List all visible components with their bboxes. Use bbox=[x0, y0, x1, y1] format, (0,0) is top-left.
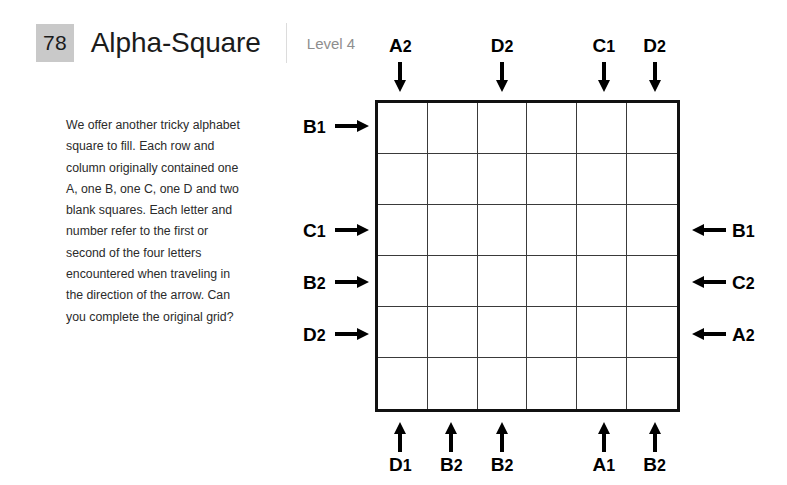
grid-cell[interactable] bbox=[627, 256, 677, 307]
puzzle-number-badge: 78 bbox=[36, 24, 74, 62]
puzzle-grid[interactable] bbox=[375, 100, 680, 412]
arrow-right-icon bbox=[335, 274, 369, 290]
clue-right-row4: C2 bbox=[732, 273, 755, 292]
clue-top-col6: D2 bbox=[643, 36, 666, 55]
arrow-down-icon bbox=[494, 62, 510, 92]
grid-cell[interactable] bbox=[627, 103, 677, 154]
grid-cell[interactable] bbox=[627, 358, 677, 409]
grid-cell[interactable] bbox=[378, 358, 428, 409]
clue-left-row5: D2 bbox=[303, 325, 326, 344]
grid-cell[interactable] bbox=[527, 307, 577, 358]
arrow-left-icon bbox=[692, 222, 726, 238]
clue-right-row5: A2 bbox=[732, 325, 755, 344]
arrow-down-icon bbox=[392, 62, 408, 92]
grid-cell[interactable] bbox=[428, 205, 478, 256]
arrow-down-icon bbox=[596, 62, 612, 92]
clue-top-col1: A2 bbox=[389, 36, 412, 55]
arrow-up-icon bbox=[647, 422, 663, 452]
grid-cell[interactable] bbox=[627, 154, 677, 205]
grid-cell[interactable] bbox=[478, 205, 528, 256]
grid-cell[interactable] bbox=[577, 154, 627, 205]
clue-bottom-col5: A1 bbox=[592, 455, 615, 474]
clue-bottom-col1: D1 bbox=[389, 455, 412, 474]
grid-cell[interactable] bbox=[378, 256, 428, 307]
arrow-up-icon bbox=[443, 422, 459, 452]
grid-cell[interactable] bbox=[577, 307, 627, 358]
grid-cell[interactable] bbox=[428, 358, 478, 409]
grid-cell[interactable] bbox=[478, 307, 528, 358]
grid-cell[interactable] bbox=[627, 205, 677, 256]
arrow-up-icon bbox=[596, 422, 612, 452]
grid-cell[interactable] bbox=[577, 205, 627, 256]
clue-left-row4: B2 bbox=[303, 273, 326, 292]
clue-top-col3: D2 bbox=[491, 36, 514, 55]
arrow-left-icon bbox=[692, 274, 726, 290]
arrow-up-icon bbox=[494, 422, 510, 452]
grid-cell[interactable] bbox=[527, 103, 577, 154]
grid-cell[interactable] bbox=[478, 256, 528, 307]
grid-cell[interactable] bbox=[577, 358, 627, 409]
grid-cell[interactable] bbox=[428, 154, 478, 205]
grid-cell[interactable] bbox=[527, 205, 577, 256]
grid-cell[interactable] bbox=[378, 103, 428, 154]
clue-top-col5: C1 bbox=[592, 36, 615, 55]
clue-bottom-col2: B2 bbox=[440, 455, 463, 474]
clue-right-row3: B1 bbox=[732, 221, 755, 240]
grid-cell[interactable] bbox=[478, 154, 528, 205]
arrow-up-icon bbox=[392, 422, 408, 452]
grid-cell[interactable] bbox=[478, 103, 528, 154]
grid-cell[interactable] bbox=[378, 307, 428, 358]
arrow-right-icon bbox=[335, 222, 369, 238]
grid-cell[interactable] bbox=[527, 256, 577, 307]
grid-cell[interactable] bbox=[428, 256, 478, 307]
page-header: 78 Alpha-Square Level 4 bbox=[36, 22, 355, 64]
header-divider bbox=[286, 23, 287, 63]
grid-cell[interactable] bbox=[378, 205, 428, 256]
clue-left-row1: B1 bbox=[303, 117, 326, 136]
grid-cell[interactable] bbox=[627, 307, 677, 358]
grid-cell[interactable] bbox=[478, 358, 528, 409]
instructions-text: We offer another tricky alphabet square … bbox=[66, 115, 246, 328]
page-title: Alpha-Square bbox=[91, 27, 261, 59]
grid-cell[interactable] bbox=[428, 307, 478, 358]
grid-cell[interactable] bbox=[527, 154, 577, 205]
arrow-right-icon bbox=[335, 326, 369, 342]
grid-cell[interactable] bbox=[577, 103, 627, 154]
clue-bottom-col3: B2 bbox=[491, 455, 514, 474]
level-label: Level 4 bbox=[307, 35, 355, 52]
arrow-down-icon bbox=[647, 62, 663, 92]
clue-left-row3: C1 bbox=[303, 221, 326, 240]
grid-cell[interactable] bbox=[378, 154, 428, 205]
arrow-right-icon bbox=[335, 118, 369, 134]
clue-bottom-col6: B2 bbox=[643, 455, 666, 474]
grid-cell[interactable] bbox=[428, 103, 478, 154]
arrow-left-icon bbox=[692, 326, 726, 342]
grid-cell[interactable] bbox=[527, 358, 577, 409]
grid-cell[interactable] bbox=[577, 256, 627, 307]
